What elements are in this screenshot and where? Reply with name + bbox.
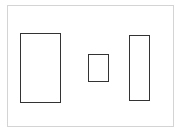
rectangle-tall-right: [129, 35, 150, 101]
rectangle-small-center: [88, 54, 109, 82]
rectangle-large-left: [20, 33, 61, 103]
